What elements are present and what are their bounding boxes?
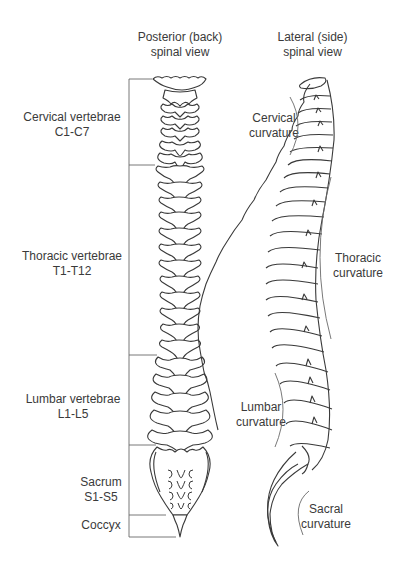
- spine-illustration: [0, 0, 401, 567]
- lateral-anterior-edge: [312, 80, 334, 470]
- coccyx: [173, 515, 187, 537]
- posterior-spine: [148, 77, 213, 538]
- thoracic-vertebrae: [156, 166, 204, 361]
- lateral-posterior-edge: [198, 84, 310, 430]
- curvature-arcs: [275, 97, 331, 535]
- lateral-sacrum: [268, 446, 309, 546]
- vertebra-c5: [161, 128, 199, 141]
- lumbar-curvature-arc: [275, 373, 283, 447]
- vertebra-c6: [160, 141, 201, 156]
- vertebra-c2: [163, 90, 197, 106]
- vertebra-c1: [153, 77, 206, 91]
- lateral-vertebrae: [266, 95, 333, 448]
- sacral-curvature-arc: [298, 491, 309, 535]
- lateral-c1: [300, 78, 326, 89]
- sacrum: [150, 447, 210, 515]
- lumbar-vertebrae: [148, 357, 213, 451]
- vertebra-c4: [161, 116, 199, 129]
- lateral-spine: [198, 78, 334, 546]
